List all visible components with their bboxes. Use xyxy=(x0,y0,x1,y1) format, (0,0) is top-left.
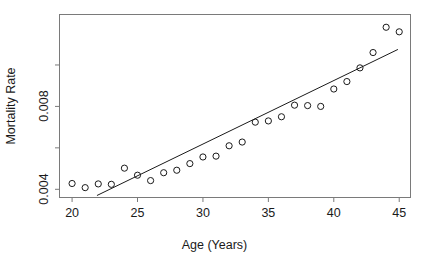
x-axis-title: Age (Years) xyxy=(0,238,429,252)
y-axis-title: Mortality Rate xyxy=(4,67,18,144)
data-point-16 xyxy=(278,114,284,120)
data-point-1 xyxy=(82,185,88,191)
data-point-4 xyxy=(121,165,127,171)
y-tick-label-2: 0.008 xyxy=(37,91,51,122)
data-point-17 xyxy=(291,102,297,108)
data-point-21 xyxy=(344,78,350,84)
chart-root: 0.0040.008 202530354045 Mortality Rate A… xyxy=(0,0,429,263)
data-point-20 xyxy=(331,86,337,92)
data-point-2 xyxy=(95,181,101,187)
data-point-25 xyxy=(396,29,402,35)
chart-canvas xyxy=(0,0,429,263)
y-axis-ticks xyxy=(55,65,59,189)
data-point-24 xyxy=(383,24,389,30)
x-tick-label-2: 30 xyxy=(183,206,223,220)
data-point-0 xyxy=(69,180,75,186)
data-point-10 xyxy=(200,154,206,160)
data-point-19 xyxy=(318,103,324,109)
data-point-9 xyxy=(187,161,193,167)
x-tick-label-0: 20 xyxy=(52,206,92,220)
x-tick-label-5: 45 xyxy=(379,206,419,220)
data-point-8 xyxy=(174,167,180,173)
data-point-18 xyxy=(305,102,311,108)
x-tick-label-3: 35 xyxy=(248,206,288,220)
y-tick-label-0: 0.004 xyxy=(37,174,51,205)
data-point-6 xyxy=(148,177,154,183)
regression-line xyxy=(97,49,398,195)
x-tick-label-4: 40 xyxy=(314,206,354,220)
data-point-15 xyxy=(265,118,271,124)
data-point-23 xyxy=(370,49,376,55)
data-point-13 xyxy=(239,139,245,145)
x-tick-label-1: 25 xyxy=(118,206,158,220)
x-axis-ticks xyxy=(72,198,399,202)
data-point-11 xyxy=(213,153,219,159)
fit-line-segment xyxy=(97,49,398,195)
data-point-14 xyxy=(252,119,258,125)
data-points xyxy=(69,24,402,191)
data-point-3 xyxy=(108,181,114,187)
data-point-7 xyxy=(161,170,167,176)
data-point-12 xyxy=(226,143,232,149)
